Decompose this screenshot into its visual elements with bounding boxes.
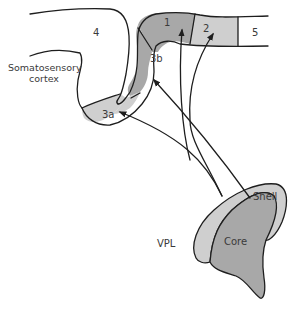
projection-core-to-3b-arrow — [154, 80, 250, 198]
projection-shell-to-2-arrow — [190, 34, 222, 196]
cortex-outline-top — [30, 9, 129, 104]
vpl-label: VPL — [157, 238, 176, 249]
area-2-label: 2 — [203, 23, 209, 34]
area-3b-label: 3b — [150, 53, 163, 64]
projection-core-to-1-arrow — [180, 30, 190, 160]
somatosensory-diagram: 4 3a 3b 1 2 5 Somatosensory cortex Shell… — [0, 0, 300, 313]
thalamus-vpl: Shell Core VPL — [157, 184, 287, 299]
core-label: Core — [224, 236, 247, 247]
cortex-label-line1: Somatosensory — [8, 62, 82, 73]
area-5-label: 5 — [252, 27, 258, 38]
cortex-label-line2: cortex — [29, 73, 59, 84]
projection-shell-to-3a-arrow — [120, 112, 222, 196]
area-3a-label: 3a — [102, 109, 115, 120]
area-1-label: 1 — [164, 17, 170, 28]
cortex: 4 3a 3b 1 2 5 Somatosensory cortex — [8, 9, 268, 125]
area-4-label: 4 — [93, 27, 99, 38]
shell-label: Shell — [253, 191, 277, 202]
area-2-region — [190, 14, 238, 46]
